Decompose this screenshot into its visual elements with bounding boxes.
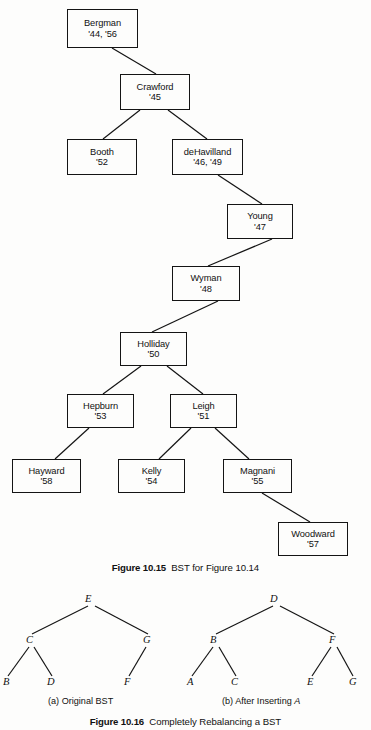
bst-node-name: Young (247, 211, 273, 221)
figure-10-16-caption: Figure 10.16 Completely Rebalancing a BS… (0, 716, 371, 727)
bst-node-hayward: Hayward'58 (12, 459, 81, 493)
bst-node-booth: Booth'52 (67, 139, 137, 175)
bst-node-name: Wyman (191, 273, 222, 283)
tree-edge-b-3 (219, 647, 236, 676)
bst-letter-node-b-g: G (349, 676, 357, 687)
tree-edge-wyman-to-holliday (152, 301, 218, 332)
figure-page: Bergman'44, '56Crawford'45Booth'52deHavi… (0, 0, 371, 730)
bst-node-years: '54 (146, 476, 158, 486)
bst-letter-node-b-e: E (307, 676, 313, 687)
tree-edge-b-1 (280, 606, 334, 634)
bst-node-years: '47 (254, 222, 266, 232)
bst-node-years: '48 (200, 284, 212, 294)
tree-edge-magnani-to-woodward (262, 493, 310, 522)
tree-edge-b-2 (192, 647, 213, 676)
bst-node-name: Bergman (84, 18, 121, 28)
bst-letter-node-a-b: B (3, 676, 9, 687)
bst-letter-node-a-d: D (47, 676, 55, 687)
figure-10-15-caption-label: Figure 10.15 (112, 562, 166, 573)
bst-node-name: Booth (90, 147, 114, 157)
bst-letter-node-b-a: A (187, 676, 193, 687)
bst-node-name: Crawford (137, 82, 174, 92)
tree-edge-young-to-wyman (208, 239, 272, 266)
subfigure-a-caption: (a) Original BST (48, 696, 113, 706)
bst-node-years: '52 (96, 157, 108, 167)
bst-node-magnani: Magnani'55 (223, 459, 292, 493)
tree-edge-crawford-to-booth (103, 110, 140, 139)
bst-letter-node-a-c: C (26, 634, 33, 645)
bst-letter-node-a-g: G (143, 634, 151, 645)
bst-node-name: Leigh (192, 401, 214, 411)
bst-node-leigh: Leigh'51 (170, 394, 237, 428)
bst-letter-node-a-f: F (124, 676, 130, 687)
subfigure-caption-text: (a) Original BST (48, 696, 113, 706)
tree-edge-a-1 (95, 606, 148, 634)
subfigure-b-caption: (b) After Inserting A (222, 696, 300, 706)
bst-letter-node-b-c: C (231, 676, 238, 687)
tree-edge-holliday-to-leigh (167, 366, 203, 394)
tree-edge-a-0 (32, 606, 88, 634)
bst-letter-node-a-e: E (85, 593, 91, 604)
bst-node-young: Young'47 (227, 204, 293, 239)
bst-node-name: Holliday (137, 339, 169, 349)
bst-node-name: Kelly (142, 466, 162, 476)
tree-edge-b-0 (216, 606, 273, 634)
bst-node-name: Hepburn (83, 401, 118, 411)
bst-letter-node-b-d: D (270, 593, 278, 604)
tree-edge-leigh-to-magnani (215, 428, 249, 459)
subfigure-caption-text: (b) After Inserting (222, 696, 294, 706)
bst-node-years: '53 (95, 411, 107, 421)
bst-node-years: '50 (148, 349, 160, 359)
bst-letter-node-b-f: F (329, 634, 335, 645)
bst-node-wyman: Wyman'48 (172, 266, 240, 301)
tree-edge-hepburn-to-hayward (55, 428, 89, 459)
tree-edge-bergman-to-crawford (112, 48, 156, 74)
bst-node-years: '46, '49 (193, 157, 222, 167)
tree-edge-b-4 (312, 647, 331, 676)
bst-node-holliday: Holliday'50 (120, 332, 187, 366)
bst-letter-node-b-b: B (210, 634, 216, 645)
bst-node-woodward: Woodward'57 (278, 522, 348, 556)
tree-edge-a-2 (8, 647, 29, 676)
bst-node-years: '57 (307, 539, 319, 549)
bst-node-bergman: Bergman'44, '56 (67, 9, 138, 48)
subfigure-caption-key: A (294, 696, 300, 706)
figure-10-15-caption-text: BST for Figure 10.14 (166, 562, 259, 573)
tree-edge-holliday-to-hepburn (103, 366, 141, 394)
bst-node-name: Hayward (29, 466, 65, 476)
figure-10-16-caption-text: Completely Rebalancing a BST (144, 716, 281, 727)
figure-10-15-caption: Figure 10.15 BST for Figure 10.14 (0, 562, 371, 573)
bst-node-name: deHavilland (184, 147, 231, 157)
tree-edge-b-5 (337, 647, 353, 676)
tree-edge-a-4 (129, 647, 146, 676)
bst-node-years: '44, '56 (88, 29, 117, 39)
tree-edge-leigh-to-kelly (159, 428, 191, 459)
bst-node-dehavilland: deHavilland'46, '49 (172, 139, 243, 175)
bst-node-years: '51 (198, 411, 210, 421)
bst-node-years: '58 (41, 476, 53, 486)
bst-node-years: '55 (252, 476, 264, 486)
bst-node-hepburn: Hepburn'53 (67, 394, 134, 428)
bst-node-name: Woodward (291, 529, 334, 539)
bst-node-crawford: Crawford'45 (120, 74, 190, 110)
tree-edge-dehavilland-to-young (218, 175, 262, 204)
tree-edge-crawford-to-dehavilland (168, 110, 207, 139)
bst-node-name: Magnani (240, 466, 275, 476)
tree-edge-a-3 (34, 647, 52, 676)
bst-node-kelly: Kelly'54 (118, 459, 185, 493)
bst-node-years: '45 (149, 92, 161, 102)
figure-10-16-caption-label: Figure 10.16 (90, 716, 144, 727)
